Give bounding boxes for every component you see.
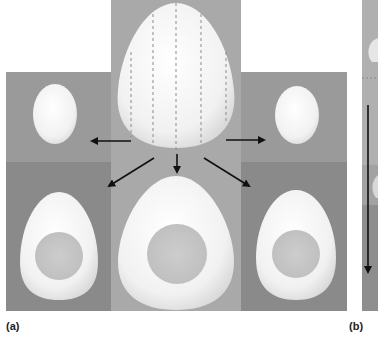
panel-b-partial-egg <box>372 175 378 198</box>
panel-a-label: (a) <box>6 320 19 332</box>
yolk-right <box>272 230 320 278</box>
panel-b-partial-cup <box>368 38 378 62</box>
yolk-left <box>35 232 83 280</box>
panel-b-label: (b) <box>349 320 363 332</box>
egg-cross-section-right <box>256 190 336 300</box>
small-egg-left <box>33 84 77 144</box>
arrow-down-left <box>109 158 154 186</box>
arrow-down-right <box>204 158 249 186</box>
diagram-canvas <box>0 0 378 338</box>
small-egg-right <box>275 86 319 144</box>
egg-cross-section-left <box>20 192 98 300</box>
yolk-center <box>147 224 207 284</box>
whole-egg <box>118 3 235 154</box>
egg-cross-section-center <box>118 176 234 310</box>
